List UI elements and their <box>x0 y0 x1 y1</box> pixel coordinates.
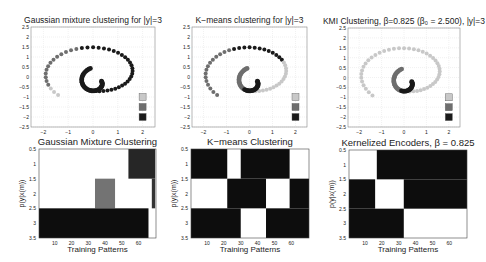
figure-svg: Gaussian mixture clustering for |y|=3−2−… <box>0 0 486 262</box>
x-tick-label: 2 <box>141 129 144 135</box>
y-tick-label: −1 <box>340 94 346 100</box>
y-tick-label: 3.5 <box>339 235 346 241</box>
y-tick-label: −2 <box>340 114 346 120</box>
heat-cell <box>191 149 227 179</box>
y-tick-label: 1 <box>26 54 29 60</box>
legend-swatch-3 <box>292 114 299 121</box>
data-point <box>80 46 84 50</box>
y-axis-label: p(y|x(m)) <box>328 180 336 208</box>
x-axis-label: Training Patterns <box>378 245 439 254</box>
data-point <box>360 80 364 84</box>
data-point <box>85 45 89 49</box>
data-point <box>45 79 49 83</box>
x-tick-label: 2 <box>294 129 297 135</box>
data-point <box>109 88 113 92</box>
data-point <box>261 89 265 93</box>
y-tick-label: −0.5 <box>19 84 29 90</box>
data-point <box>416 48 420 52</box>
data-point <box>208 86 212 90</box>
data-point <box>359 72 363 76</box>
heat-cell <box>377 150 467 179</box>
data-point <box>44 75 48 79</box>
data-point <box>362 83 366 87</box>
data-point <box>422 87 426 91</box>
data-point <box>204 79 208 83</box>
data-point <box>107 48 111 52</box>
y-tick-label: 1 <box>343 55 346 61</box>
y-tick-label: 2.5 <box>29 205 36 211</box>
y-tick-label: 0 <box>343 75 346 81</box>
x-tick-label: −2 <box>201 129 207 135</box>
y-tick-label: −1 <box>184 94 190 100</box>
x-tick-label: 1 <box>425 129 428 135</box>
data-point <box>69 48 73 52</box>
y-tick-label: 0.5 <box>181 146 188 152</box>
y-tick-label: 0 <box>26 74 29 80</box>
y-tick-label: 2.5 <box>339 206 346 212</box>
y-tick-label: 1.5 <box>339 45 346 51</box>
data-point <box>412 47 416 51</box>
data-point <box>361 65 365 69</box>
y-tick-label: 1 <box>33 161 36 167</box>
y-axis-label: p(y|x(m)) <box>170 180 178 208</box>
y-tick-label: 0.5 <box>339 65 346 71</box>
y-tick-label: 3.5 <box>181 235 188 241</box>
y-tick-label: 0.5 <box>29 146 36 152</box>
kmeans_scatter-axes: K−means clustering for |y|=3−2−10122.521… <box>180 15 307 135</box>
heat-cell <box>241 149 290 179</box>
x-tick-label: 2 <box>447 129 450 135</box>
x-tick-label: 60 <box>447 240 453 246</box>
data-point <box>267 49 271 53</box>
y-tick-label: 3 <box>33 220 36 226</box>
heat-cell <box>39 208 148 238</box>
x-tick-label: 60 <box>289 240 295 246</box>
data-point <box>268 87 272 91</box>
chart-title: KMI Clustering, β=0.825 (β₀ = 2.500), |y… <box>323 16 485 26</box>
legend-swatch-2 <box>445 104 452 111</box>
data-point <box>55 55 59 59</box>
data-point <box>51 58 55 62</box>
heat-cell <box>95 179 115 209</box>
y-tick-label: 2.5 <box>339 25 346 31</box>
data-point <box>56 93 60 97</box>
data-point <box>44 72 48 76</box>
data-point <box>99 79 104 84</box>
data-point <box>116 51 120 55</box>
x-tick-label: 10 <box>362 240 368 246</box>
data-point <box>232 47 236 51</box>
ke_heatmap-axes: Kernelized Encoders, β = 0.8250.511.522.… <box>328 137 475 254</box>
data-point <box>248 45 252 49</box>
chart-title: Gaussian mixture clustering for |y|=3 <box>24 15 162 25</box>
data-point <box>206 64 210 68</box>
data-point <box>253 46 257 50</box>
data-point <box>425 52 429 56</box>
x-tick-label: −1 <box>379 129 385 135</box>
data-point <box>370 56 374 60</box>
data-point <box>105 89 109 93</box>
y-tick-label: 1.5 <box>183 44 190 50</box>
y-tick-label: 2 <box>343 191 346 197</box>
legend-swatch-3 <box>139 114 146 121</box>
data-point <box>120 53 124 57</box>
y-tick-label: 0.5 <box>339 147 346 153</box>
data-point <box>97 46 101 50</box>
heat-cell <box>128 149 155 179</box>
data-point <box>45 68 49 72</box>
data-point <box>360 68 364 72</box>
heat-cell <box>266 208 309 238</box>
x-axis-label: Training Patterns <box>220 245 281 254</box>
x-tick-label: 1 <box>116 129 119 135</box>
y-tick-label: −2.5 <box>180 124 190 130</box>
y-tick-label: 2 <box>33 191 36 197</box>
data-point <box>227 48 231 52</box>
y-tick-label: −0.5 <box>180 84 190 90</box>
y-tick-label: 3 <box>185 220 188 226</box>
data-point <box>237 46 241 50</box>
x-tick-label: −1 <box>65 129 71 135</box>
data-point <box>204 72 208 76</box>
data-point <box>370 93 374 97</box>
data-point <box>265 88 269 92</box>
x-tick-label: 0 <box>92 129 95 135</box>
data-point <box>215 93 219 97</box>
legend-swatch-1 <box>445 94 452 101</box>
